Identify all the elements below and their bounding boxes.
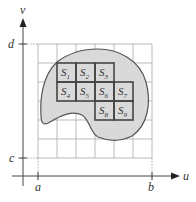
tick-label-d: d — [8, 37, 15, 51]
tick-label-c: c — [9, 151, 15, 165]
v-axis-label: v — [20, 3, 26, 17]
u-axis-arrow-icon — [171, 173, 180, 180]
u-axis-label: u — [183, 169, 189, 183]
region-partition-diagram: S1S2S3S4S5S6S7S8S9 v u d c a b — [0, 0, 196, 202]
v-axis-arrow-icon — [20, 18, 27, 27]
tick-label-b: b — [148, 180, 154, 194]
tick-label-a: a — [35, 180, 41, 194]
